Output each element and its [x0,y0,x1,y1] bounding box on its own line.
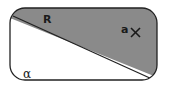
point-label-a: a [121,23,128,36]
diagram-canvas: R a α [0,0,169,88]
universe-label-alpha: α [23,67,31,81]
line-label-r: R [43,13,52,26]
